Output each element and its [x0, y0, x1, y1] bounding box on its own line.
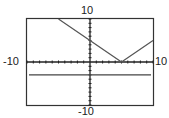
xmax-label: 10 [155, 56, 167, 67]
ymax-label: 10 [81, 5, 93, 16]
ymin-label: -10 [78, 106, 94, 117]
axes [27, 19, 153, 105]
xmin-label: -10 [3, 56, 19, 67]
graph-svg [0, 0, 169, 118]
absolute-value-curve [59, 19, 154, 62]
